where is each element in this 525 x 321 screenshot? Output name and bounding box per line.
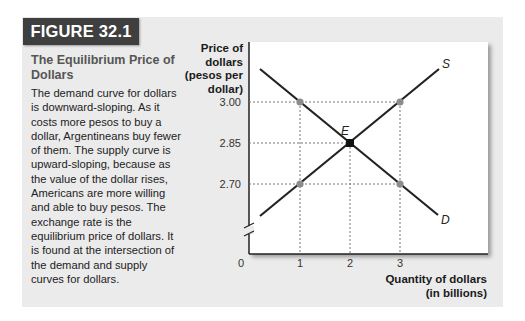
y-tick-2-70: 2.70 — [220, 178, 241, 190]
supply-demand-chart: E S D 3.00 2.85 2.70 0 1 2 3 — [0, 0, 525, 321]
y-tick-3-00: 3.00 — [220, 96, 241, 108]
supply-label: S — [442, 57, 450, 71]
equilibrium-marker — [346, 139, 354, 147]
x-tick-0: 0 — [238, 257, 244, 269]
x-tick-2: 2 — [347, 257, 353, 269]
x-tick-1: 1 — [297, 257, 303, 269]
y-tick-2-85: 2.85 — [220, 137, 241, 149]
axis-break-icon — [244, 223, 254, 236]
x-tick-3: 3 — [397, 257, 403, 269]
equilibrium-label: E — [341, 124, 350, 138]
guide-lines — [249, 102, 400, 254]
demand-label: D — [441, 213, 450, 227]
